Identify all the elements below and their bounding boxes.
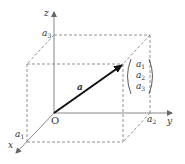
a2-tick-label: a2 xyxy=(147,115,156,124)
vector-a-arrow xyxy=(54,65,122,113)
component-a1: a1 xyxy=(132,59,149,70)
origin-label: O xyxy=(51,116,59,126)
vector-a-label: a xyxy=(77,83,83,92)
coordinate-diagram xyxy=(0,0,185,164)
a3-tick-label: a3 xyxy=(42,29,51,38)
a1-tick-label: a1 xyxy=(15,130,24,139)
z-axis-label: z xyxy=(44,9,49,18)
vector-components: a1 a2 a3 xyxy=(132,59,149,92)
component-a2: a2 xyxy=(132,70,149,81)
y-axis-label: y xyxy=(167,117,172,126)
component-a3: a3 xyxy=(132,81,149,92)
x-axis-label: x xyxy=(8,141,13,150)
